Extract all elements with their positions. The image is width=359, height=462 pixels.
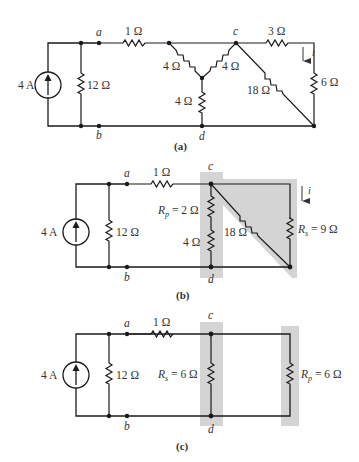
y-left-label: 4 Ω	[163, 60, 180, 72]
current-label-a: i	[312, 47, 315, 58]
source-label-c: 4 A	[41, 369, 58, 381]
resistor-12-b	[106, 184, 112, 267]
resistor-12-c	[106, 334, 112, 416]
rs-label-c: Rs = 6 Ω	[157, 368, 198, 383]
r12-label-c: 12 Ω	[116, 369, 139, 381]
node-c-label-b: c	[208, 160, 213, 172]
node-d-label-c: d	[208, 423, 214, 435]
rs-label-b: Rs = 9 Ω	[297, 223, 338, 238]
r3-label-a: 3 Ω	[268, 25, 285, 37]
node-c-label: c	[233, 25, 238, 37]
rp-label-b: Rp = 2 Ω	[157, 204, 198, 219]
rp-label-c: Rp = 6 Ω	[300, 368, 341, 383]
node-d-label: d	[199, 130, 205, 142]
r12-label-a: 12 Ω	[87, 79, 110, 91]
r1-label-a: 1 Ω	[125, 25, 142, 37]
caption-a: (a)	[174, 140, 187, 153]
node-c-label-c: c	[208, 309, 213, 321]
node-b-dot	[97, 124, 101, 128]
source-label-b: 4 A	[41, 226, 58, 238]
panel-c: 4 A 12 Ω a b 1 Ω c Rs = 6 Ω d Rp = 6 Ω (…	[41, 309, 341, 453]
node-b-label-c: b	[124, 420, 130, 432]
r1-label-b: 1 Ω	[153, 166, 170, 178]
r4-label-b: 4 Ω	[183, 236, 200, 248]
node-a-label-c: a	[124, 317, 130, 329]
arrow-up-icon	[73, 364, 80, 371]
r12-label-b: 12 Ω	[116, 226, 139, 238]
node-a-label: a	[96, 26, 102, 38]
node-d-label-b: d	[208, 273, 214, 285]
y-bottom-label: 4 Ω	[175, 95, 192, 107]
resistor-y-bottom	[199, 78, 205, 126]
node-b-label: b	[96, 129, 102, 141]
panel-b: 4 A 12 Ω a b 1 Ω c Rp = 2 Ω 4 Ω d 18 Ω R…	[41, 160, 338, 302]
node-d-dot	[200, 124, 204, 128]
arrow-up-icon	[73, 221, 80, 228]
panel-a: 4 A 12 Ω a b 1 Ω 4 Ω 4 Ω 4 Ω d c 3 Ω 6	[18, 25, 338, 153]
source-label-a: 4 A	[18, 79, 35, 91]
node-a-label-b: a	[124, 167, 130, 179]
r18-label-a: 18 Ω	[247, 84, 270, 96]
caption-b: (b)	[176, 289, 190, 302]
arrow-up-icon	[45, 74, 52, 81]
r1-label-c: 1 Ω	[153, 316, 170, 328]
resistor-6-a	[311, 70, 317, 126]
y-right-label: 4 Ω	[222, 60, 239, 72]
current-label-b: i	[308, 185, 311, 196]
r18-label-b: 18 Ω	[224, 226, 247, 238]
r6-label-a: 6 Ω	[321, 76, 338, 88]
node-b-label-b: b	[124, 271, 130, 283]
resistor-12-a	[78, 43, 84, 126]
caption-c: (c)	[176, 440, 189, 453]
circuit-figure: 4 A 12 Ω a b 1 Ω 4 Ω 4 Ω 4 Ω d c 3 Ω 6	[0, 0, 359, 462]
